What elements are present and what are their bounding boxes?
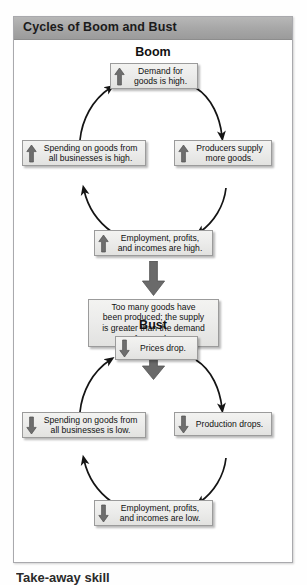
up-arrow-icon	[98, 234, 109, 253]
node-label: Spending on goods from all businesses is…	[40, 415, 141, 435]
link-demand-to-producers	[196, 88, 222, 136]
node-label: Demand for goods is high.	[128, 66, 193, 86]
panel-titlebar: Cycles of Boom and Bust	[14, 17, 292, 40]
link-spending-to-prices	[80, 360, 110, 412]
bust-heading: Bust	[14, 318, 292, 332]
node-label: Employment, profits, and incomes are hig…	[112, 233, 208, 253]
down-arrow-icon	[178, 415, 189, 434]
diagram-panel: Cycles of Boom and Bust	[13, 16, 293, 563]
up-arrow-icon	[26, 144, 37, 163]
link-prices-to-production	[196, 360, 222, 408]
node-spending-high: Spending on goods from all businesses is…	[22, 140, 146, 166]
node-label: Spending on goods from all businesses is…	[40, 143, 141, 163]
node-employment-low: Employment, profits, and incomes are low…	[94, 500, 213, 526]
link-spending-to-demand	[80, 88, 110, 140]
node-label: Production drops.	[192, 419, 267, 429]
down-arrow-thick-icon-top	[141, 261, 166, 301]
panel-title: Cycles of Boom and Bust	[23, 20, 177, 34]
node-spending-low: Spending on goods from all businesses is…	[22, 412, 146, 438]
node-employment-high: Employment, profits, and incomes are hig…	[94, 230, 213, 256]
diagram-canvas: Boom Demand for goods is high. Spending …	[14, 40, 292, 563]
node-label: Employment, profits, and incomes are low…	[112, 503, 208, 523]
page-caption: Take-away skill	[16, 570, 110, 585]
up-arrow-icon	[178, 144, 189, 163]
node-producers-supply: Producers supply more goods.	[174, 140, 272, 166]
down-arrow-icon	[26, 416, 37, 435]
node-prices-drop: Prices drop.	[115, 336, 198, 360]
link-production-to-employment-low	[200, 458, 226, 502]
node-label: Producers supply more goods.	[192, 143, 267, 163]
boom-heading: Boom	[14, 45, 292, 59]
down-arrow-icon	[98, 504, 109, 523]
link-employment-to-spending-low	[84, 460, 112, 502]
link-employment-to-spending	[84, 190, 112, 232]
node-production-drops: Production drops.	[174, 412, 272, 436]
node-demand-for-goods: Demand for goods is high.	[110, 63, 198, 89]
down-arrow-icon	[119, 339, 130, 358]
up-arrow-icon	[114, 67, 125, 86]
node-label: Prices drop.	[133, 343, 193, 353]
link-producers-to-employment	[200, 188, 226, 232]
